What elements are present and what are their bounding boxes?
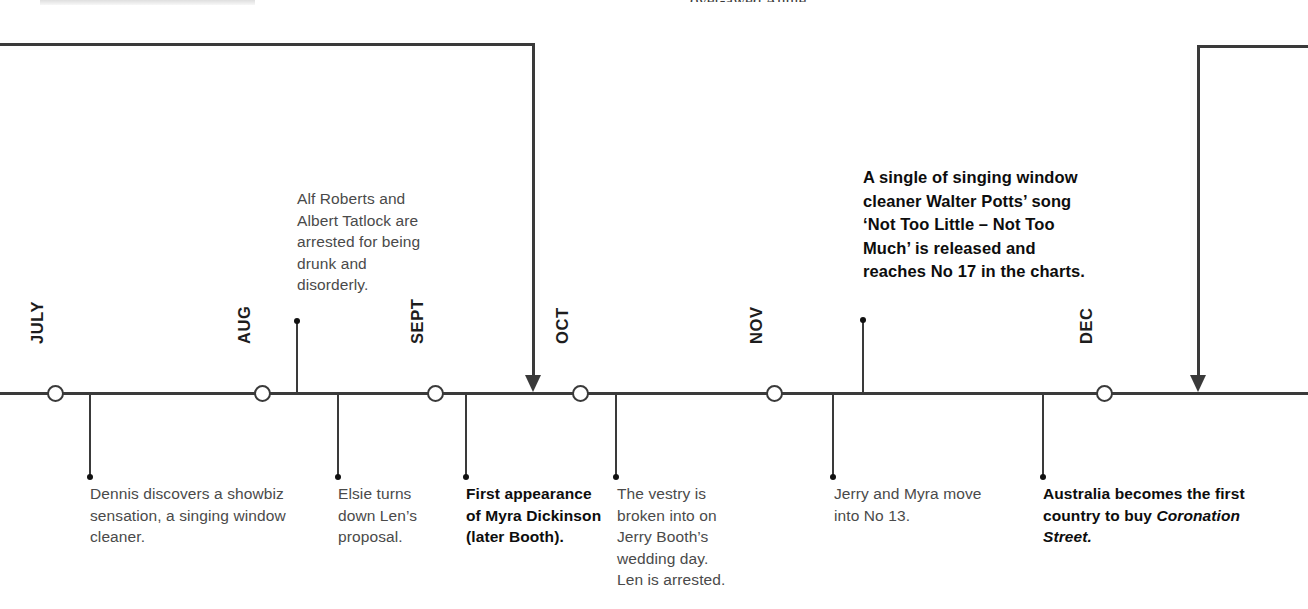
month-label: NOV xyxy=(747,306,766,344)
event-stem-down xyxy=(337,393,339,477)
month-node-circle[interactable] xyxy=(572,385,589,402)
event-stem-up xyxy=(862,320,864,393)
event-text-elsie-turns-down-len: Elsie turns down Len’s proposal. xyxy=(338,483,450,548)
event-stem-dot xyxy=(830,474,836,480)
month-node-circle[interactable] xyxy=(766,385,783,402)
event-text-walter-potts-single: A single of singing window cleaner Walte… xyxy=(863,166,1095,284)
event-stem-down xyxy=(89,393,91,477)
month-node-circle[interactable] xyxy=(1096,385,1113,402)
event-stem-down xyxy=(832,393,834,477)
connector-vertical-segment xyxy=(1197,45,1200,377)
month-label: OCT xyxy=(553,307,572,344)
event-text-dennis-discovers-showbiz: Dennis discovers a showbiz sensation, a … xyxy=(90,483,305,548)
event-stem-up xyxy=(296,321,298,393)
event-stem-dot xyxy=(860,317,866,323)
month-node-circle[interactable] xyxy=(427,385,444,402)
event-stem-down xyxy=(615,393,617,477)
connector-arrowhead-icon xyxy=(525,375,541,392)
month-label: AUG xyxy=(235,306,254,344)
event-stem-dot xyxy=(87,474,93,480)
event-text-jerry-myra-move-no-13: Jerry and Myra move into No 13. xyxy=(834,483,984,526)
event-stem-dot xyxy=(294,318,300,324)
event-stem-down xyxy=(1042,393,1044,477)
event-stem-dot xyxy=(1040,474,1046,480)
event-stem-dot xyxy=(463,474,469,480)
cutoff-body-text: over-awed Annie. xyxy=(690,0,811,2)
event-text-myra-dickinson-first-appearance: First appearance of Myra Dickinson (late… xyxy=(466,483,602,548)
connector-vertical-segment xyxy=(532,43,535,377)
connector-horizontal-segment xyxy=(0,43,535,46)
timeline-page: over-awed Annie. JULY AUG SEPT xyxy=(0,0,1308,609)
event-stem-down xyxy=(465,393,467,477)
event-text-vestry-broken-into: The vestry is broken into on Jerry Booth… xyxy=(617,483,735,591)
page-edge-artifact xyxy=(40,0,255,5)
month-label: DEC xyxy=(1077,307,1096,344)
connector-horizontal-segment xyxy=(1197,45,1308,48)
connector-arrowhead-icon xyxy=(1190,375,1206,392)
month-label: SEPT xyxy=(408,299,427,345)
event-stem-dot xyxy=(613,474,619,480)
event-text-australia-buys-coronation-street: Australia becomes the first country to b… xyxy=(1043,483,1248,548)
month-node-circle[interactable] xyxy=(47,385,64,402)
event-stem-dot xyxy=(335,474,341,480)
month-node-circle[interactable] xyxy=(254,385,271,402)
month-label: JULY xyxy=(28,301,47,344)
event-text-alf-roberts-arrest: Alf Roberts and Albert Tatlock are arres… xyxy=(297,188,432,296)
